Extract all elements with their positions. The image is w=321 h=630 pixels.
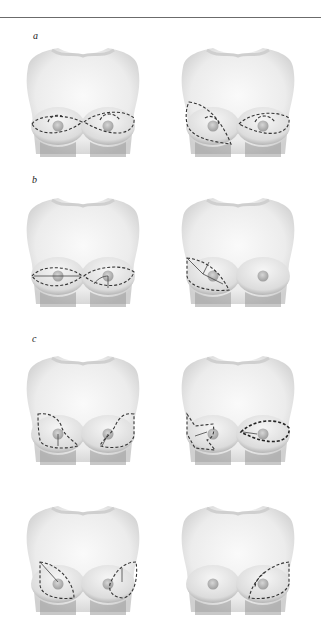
illustration-c-right-2 <box>173 500 303 615</box>
illustration-b-right <box>173 192 303 307</box>
top-rule <box>0 17 321 18</box>
illustration-b-left <box>18 192 148 307</box>
illustration-a-right <box>173 42 303 157</box>
illustration-c-right-1 <box>173 350 303 465</box>
panel-label-a: a <box>33 30 38 41</box>
illustration-c-left-2 <box>18 500 148 615</box>
illustration-c-left-1 <box>18 350 148 465</box>
illustration-a-left <box>18 42 148 157</box>
panel-label-b: b <box>32 174 37 185</box>
panel-label-c: c <box>32 333 36 344</box>
